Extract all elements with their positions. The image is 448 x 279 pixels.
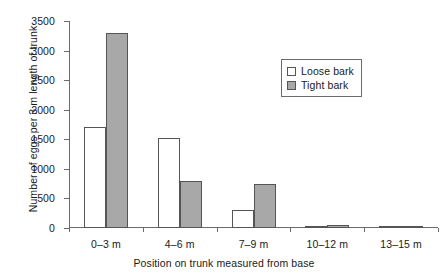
bar-tight-bark — [401, 226, 423, 228]
y-axis-tick-label: 3500 — [31, 15, 55, 27]
legend-label-loose-bark: Loose bark — [301, 65, 354, 77]
x-axis-tick — [364, 228, 365, 232]
y-axis-tick-label: 1000 — [31, 163, 55, 175]
y-axis-tick-label: 0 — [49, 222, 55, 234]
x-axis-category-label: 4–6 m — [165, 238, 195, 250]
bar-loose-bark — [232, 210, 254, 228]
x-axis-tick — [290, 228, 291, 232]
y-axis-tick: 3000 — [64, 51, 69, 52]
bar-loose-bark — [305, 226, 327, 228]
y-axis-tick: 1500 — [64, 139, 69, 140]
legend-label-tight-bark: Tight bark — [301, 79, 348, 91]
x-axis-category-label: 10–12 m — [307, 238, 349, 250]
legend: Loose bark Tight bark — [281, 59, 362, 97]
x-axis-tick — [438, 228, 439, 232]
y-axis-tick: 2000 — [64, 110, 69, 111]
bar-loose-bark — [84, 127, 106, 228]
y-axis-tick-label: 3000 — [31, 45, 55, 57]
legend-swatch-loose-bark-icon — [287, 67, 296, 76]
x-axis-title: Position on trunk measured from base — [0, 257, 448, 269]
bar-tight-bark — [180, 181, 202, 228]
x-axis-category-label: 13–15 m — [380, 238, 422, 250]
y-axis-tick-label: 2000 — [31, 104, 55, 116]
bar-tight-bark — [327, 225, 349, 228]
y-axis-tick-label: 2500 — [31, 74, 55, 86]
bar-chart-figure: Number of eggs per 3 m length of trunk 0… — [0, 0, 448, 279]
x-axis-tick — [69, 228, 70, 232]
x-axis-tick — [217, 228, 218, 232]
bar-tight-bark — [254, 184, 276, 228]
legend-item-tight-bark: Tight bark — [287, 78, 354, 92]
y-axis-tick: 500 — [64, 198, 69, 199]
legend-swatch-tight-bark-icon — [287, 81, 296, 90]
y-axis-tick: 1000 — [64, 169, 69, 170]
legend-item-loose-bark: Loose bark — [287, 64, 354, 78]
bar-tight-bark — [106, 33, 128, 228]
bar-loose-bark — [158, 138, 180, 228]
y-axis-tick-label: 500 — [37, 192, 55, 204]
y-axis-line — [69, 21, 70, 228]
x-axis-tick — [143, 228, 144, 232]
y-axis-tick: 2500 — [64, 80, 69, 81]
y-axis-tick-label: 1500 — [31, 133, 55, 145]
x-axis-category-label: 7–9 m — [239, 238, 269, 250]
y-axis-tick: 3500 — [64, 21, 69, 22]
x-axis-category-label: 0–3 m — [91, 238, 121, 250]
plot-area: 0500100015002000250030003500 — [69, 21, 438, 228]
bar-loose-bark — [379, 226, 401, 228]
